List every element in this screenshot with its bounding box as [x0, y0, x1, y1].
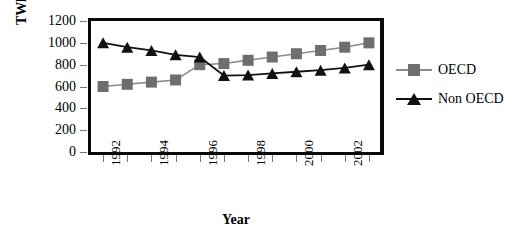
legend-label-oecd: OECD	[432, 62, 476, 78]
x-tick-label: 1998	[253, 140, 269, 166]
legend-label-non-oecd: Non OECD	[432, 91, 504, 107]
x-tick-label: 2000	[301, 140, 317, 166]
x-tick-label: 1992	[108, 140, 124, 166]
triangle-marker-icon	[407, 93, 421, 105]
x-tick-label: 1996	[205, 140, 221, 166]
x-axis-title: Year	[88, 212, 384, 228]
chart-legend: OECD Non OECD	[396, 55, 526, 113]
legend-item-non-oecd: Non OECD	[396, 84, 526, 113]
legend-swatch-square-icon	[396, 63, 432, 77]
x-tick-label: 1994	[156, 140, 172, 166]
x-axis-tick-labels: 199219941996199820002002	[0, 0, 530, 239]
x-tick-label: 2002	[350, 140, 366, 166]
legend-swatch-triangle-icon	[396, 92, 432, 106]
chart-figure: TWh/year 120010008006004002000 199219941…	[0, 0, 530, 239]
square-marker-icon	[408, 64, 420, 76]
legend-item-oecd: OECD	[396, 55, 526, 84]
